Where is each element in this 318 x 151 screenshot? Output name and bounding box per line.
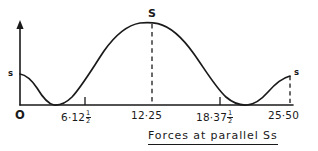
force-diagram-figure: s S s O 6·1212 12·25 18·3712 25·50 Force…: [0, 0, 318, 151]
x-tick-value-6-12: 6·12: [61, 111, 85, 123]
curve-peak-label-S: S: [148, 8, 156, 19]
x-tick-label-6-12-half: 6·1212: [61, 110, 91, 124]
figure-caption: Forces at parallel Ss: [148, 129, 278, 145]
origin-label: O: [15, 110, 25, 122]
x-tick-label-18-37-half: 18·3712: [196, 110, 233, 124]
x-tick-fraction-half: 12: [86, 110, 91, 124]
x-tick-label-12-25: 12·25: [131, 110, 162, 121]
x-tick-value-18-37: 18·37: [196, 111, 227, 123]
curve-start-label-s: s: [8, 69, 13, 78]
y-axis: [16, 20, 23, 105]
x-tick-label-25-50: 25·50: [268, 110, 299, 121]
curve-end-label-s: s: [294, 68, 299, 77]
x-tick-fraction-half-2: 12: [227, 110, 232, 124]
force-curve: [20, 23, 290, 105]
